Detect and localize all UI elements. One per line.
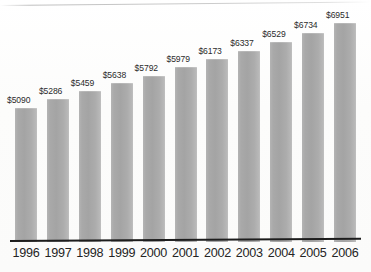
bar-group: $5792 xyxy=(143,1,165,242)
bar[interactable] xyxy=(334,23,356,242)
x-tick-label-2005: 2005 xyxy=(297,246,329,260)
x-axis-tick-labels: 1996199719981999200020012002200320042005… xyxy=(0,246,371,268)
bar-group: $5090 xyxy=(15,1,37,242)
bar-value-label: $5090 xyxy=(7,95,30,105)
bar[interactable] xyxy=(238,51,260,242)
bar-value-label: $6951 xyxy=(326,10,349,20)
bar-group: $6734 xyxy=(302,1,324,242)
x-tick-label-1996: 1996 xyxy=(10,246,42,260)
bar[interactable] xyxy=(47,99,69,242)
x-tick-label-2001: 2001 xyxy=(170,246,202,260)
bar-group: $6951 xyxy=(334,1,356,242)
plot-area: $5090$5286$5459$5638$5792$5979$6173$6337… xyxy=(0,0,371,242)
bar-chart: $5090$5286$5459$5638$5792$5979$6173$6337… xyxy=(0,0,371,272)
x-tick-label-2002: 2002 xyxy=(201,246,233,260)
x-tick-label-1999: 1999 xyxy=(106,246,138,260)
bar[interactable] xyxy=(111,83,133,242)
bar[interactable] xyxy=(206,59,228,242)
bar-value-label: $6337 xyxy=(230,38,253,48)
bar-group: $5286 xyxy=(47,1,69,242)
bar-value-label: $6173 xyxy=(198,46,221,56)
x-tick-label-2003: 2003 xyxy=(233,246,265,260)
bar-value-label: $5459 xyxy=(71,78,94,88)
x-tick-label-1997: 1997 xyxy=(42,246,74,260)
bar-value-label: $5979 xyxy=(167,54,190,64)
bar[interactable] xyxy=(143,76,165,242)
bar-value-label: $5792 xyxy=(135,63,158,73)
x-tick-label-2004: 2004 xyxy=(265,246,297,260)
bar-group: $6173 xyxy=(206,1,228,242)
x-tick-label-2006: 2006 xyxy=(329,246,361,260)
bar-value-label: $6529 xyxy=(262,29,285,39)
x-tick-label-2000: 2000 xyxy=(138,246,170,260)
bar[interactable] xyxy=(79,91,101,242)
bar[interactable] xyxy=(270,42,292,242)
bar-group: $6337 xyxy=(238,1,260,242)
bar-group: $6529 xyxy=(270,1,292,242)
bar-group: $5638 xyxy=(111,1,133,242)
bar[interactable] xyxy=(175,67,197,242)
bar-group: $5979 xyxy=(175,1,197,242)
bar-group: $5459 xyxy=(79,1,101,242)
bar-value-label: $6734 xyxy=(294,20,317,30)
bar[interactable] xyxy=(15,108,37,242)
x-tick-label-1998: 1998 xyxy=(74,246,106,260)
bar[interactable] xyxy=(302,33,324,242)
bar-value-label: $5638 xyxy=(103,70,126,80)
bar-value-label: $5286 xyxy=(39,86,62,96)
